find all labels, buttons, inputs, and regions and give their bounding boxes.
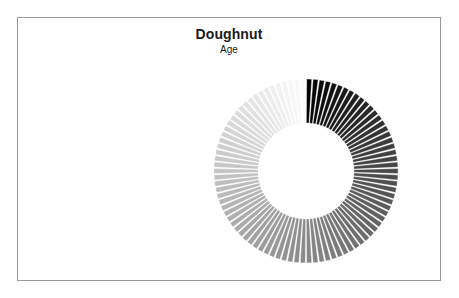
doughnut-slice[interactable] — [354, 169, 398, 174]
doughnut-chart[interactable] — [214, 79, 398, 263]
doughnut-slice-group — [214, 79, 398, 263]
doughnut-slice[interactable] — [214, 169, 258, 174]
doughnut-svg — [214, 79, 398, 263]
chart-subtitle: Age — [18, 44, 440, 56]
page-title: Doughnut — [18, 26, 440, 42]
chart-frame: Doughnut Age — [17, 17, 441, 281]
chart-page: Doughnut Age — [0, 0, 459, 298]
